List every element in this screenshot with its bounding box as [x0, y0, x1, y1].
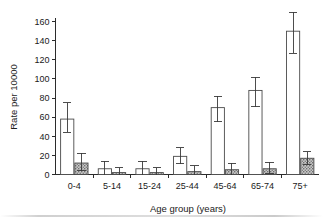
error-bars-layer [63, 12, 311, 174]
x-tick-label: 45-64 [213, 181, 236, 191]
y-axis-ticks: 020406080100120140160 [34, 17, 55, 180]
page-edge-artifact [0, 215, 323, 217]
y-tick-label: 100 [34, 74, 49, 84]
y-tick-label: 20 [39, 151, 49, 161]
y-tick-label: 80 [39, 93, 49, 103]
y-tick-label: 40 [39, 132, 49, 142]
y-tick-label: 0 [44, 170, 49, 180]
y-tick-label: 60 [39, 112, 49, 122]
y-tick-label: 120 [34, 55, 49, 65]
x-axis-title: Age group (years) [150, 203, 226, 214]
y-tick-label: 160 [34, 17, 49, 27]
y-axis-title: Rate per 10000 [8, 64, 19, 130]
chart-canvas: Rate per 10000 Age group (years) 0204060… [0, 0, 323, 218]
x-tick-label: 75+ [293, 181, 308, 191]
x-tick-label: 0-4 [68, 181, 81, 191]
x-tick-label: 15-24 [138, 181, 161, 191]
x-axis-ticks: 0-45-1415-2425-4445-6465-7475+ [68, 175, 308, 191]
axis-spines [56, 18, 320, 175]
x-tick-label: 5-14 [103, 181, 121, 191]
y-tick-label: 140 [34, 36, 49, 46]
bar-chart-figure: Rate per 10000 Age group (years) 0204060… [0, 0, 323, 218]
bars-layer [61, 31, 314, 174]
x-tick-label: 65-74 [251, 181, 274, 191]
x-tick-label: 25-44 [176, 181, 199, 191]
